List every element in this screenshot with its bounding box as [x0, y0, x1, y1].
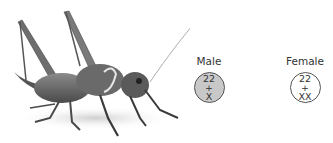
male-karyotype: Male 22 + X	[187, 55, 231, 103]
male-label: Male	[187, 55, 231, 69]
male-chromosome-circle: 22 + X	[194, 72, 225, 103]
female-sex-chromosomes: XX	[298, 92, 311, 101]
male-sex-chromosomes: X	[206, 92, 213, 101]
female-chromosome-circle: 22 + XX	[290, 72, 321, 103]
cricket-illustration	[0, 0, 190, 143]
female-label: Female	[283, 55, 327, 69]
female-karyotype: Female 22 + XX	[283, 55, 327, 103]
